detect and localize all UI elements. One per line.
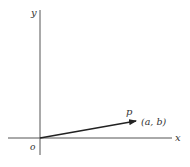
x-axis-label: x: [175, 132, 181, 143]
origin-label: o: [30, 142, 36, 152]
vector-p-arrow: [40, 121, 136, 138]
endpoint-label: (a, b): [141, 116, 166, 127]
coordinate-diagram: y x o p (a, b): [0, 0, 190, 167]
vector-label-p: p: [126, 106, 133, 117]
y-axis-label: y: [30, 7, 37, 18]
